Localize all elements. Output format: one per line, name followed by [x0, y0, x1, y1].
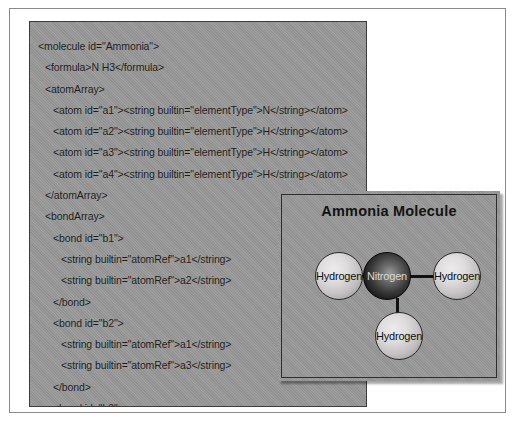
xml-line: <formula>N H3</formula>: [38, 57, 366, 78]
diagram-title: Ammonia Molecule: [278, 203, 500, 219]
xml-line: <molecule id="Ammonia">: [38, 36, 366, 57]
atom-hydrogen-left: Hydrogen: [315, 252, 363, 300]
xml-line: <atomArray>: [38, 79, 366, 100]
xml-line: <bond id="b3">: [38, 398, 366, 407]
xml-line: <atom id="a4"><string builtin="elementTy…: [38, 164, 366, 185]
atom-nitrogen: Nitrogen: [363, 252, 411, 300]
xml-line: <atom id="a3"><string builtin="elementTy…: [38, 142, 366, 163]
atom-hydrogen-bottom: Hydrogen: [375, 312, 423, 360]
xml-line: <atom id="a2"><string builtin="elementTy…: [38, 121, 366, 142]
xml-line: <atom id="a1"><string builtin="elementTy…: [38, 100, 366, 121]
molecule-diagram-panel: Ammonia Molecule Hydrogen Nitrogen Hydro…: [278, 191, 500, 381]
slide-frame: <molecule id="Ammonia"><formula>N H3</fo…: [9, 8, 506, 413]
atom-hydrogen-right: Hydrogen: [433, 252, 481, 300]
